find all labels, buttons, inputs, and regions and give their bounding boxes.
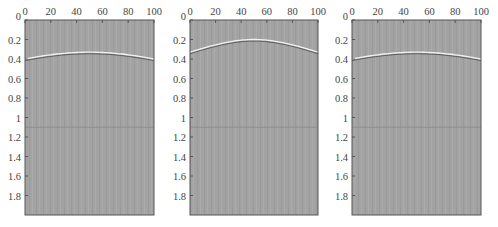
y-tick-label: 0.4 [173, 54, 187, 65]
x-tick-label: 80 [287, 6, 298, 17]
x-tick-label: 60 [97, 6, 108, 17]
figure-canvas: 02040608010000.20.40.60.811.21.41.61.802… [0, 0, 498, 227]
y-tick-label: 1.6 [173, 171, 186, 182]
y-tick-label: 1.8 [173, 191, 186, 202]
y-tick-label: 1.8 [335, 191, 348, 202]
y-tick-label: 1.2 [8, 132, 21, 143]
y-tick-label: 1.6 [335, 171, 348, 182]
x-tick-label: 20 [373, 6, 384, 17]
y-tick-label: 0.6 [335, 74, 348, 85]
x-tick-label: 60 [424, 6, 435, 17]
y-tick-label: 0 [181, 11, 186, 22]
x-tick-label: 100 [310, 6, 326, 17]
y-tick-label: 1 [343, 113, 348, 124]
y-tick-label: 0.4 [8, 54, 22, 65]
y-tick-label: 1.2 [335, 132, 348, 143]
seismic-panel-2: 02040608010000.20.40.60.811.21.41.61.8 [173, 6, 326, 215]
y-tick-label: 0.2 [173, 35, 186, 46]
y-tick-label: 1.4 [8, 152, 22, 163]
x-tick-label: 60 [262, 6, 273, 17]
y-tick-label: 1 [181, 113, 186, 124]
seismic-panel-3: 02040608010000.20.40.60.811.21.41.61.8 [335, 6, 489, 215]
seismic-panel-1: 02040608010000.20.40.60.811.21.41.61.8 [8, 6, 162, 215]
x-tick-label: 100 [473, 6, 489, 17]
x-tick-label: 40 [71, 6, 82, 17]
y-tick-label: 0.2 [8, 35, 21, 46]
y-tick-label: 1.2 [173, 132, 186, 143]
y-tick-label: 0.8 [173, 93, 186, 104]
plot-area [352, 20, 481, 215]
x-tick-label: 20 [210, 6, 221, 17]
y-tick-label: 0.6 [173, 74, 186, 85]
x-tick-label: 40 [398, 6, 409, 17]
x-tick-label: 80 [123, 6, 134, 17]
y-tick-label: 0.6 [8, 74, 21, 85]
y-tick-label: 1.4 [335, 152, 349, 163]
y-tick-label: 0 [343, 11, 348, 22]
y-tick-label: 0 [16, 11, 21, 22]
y-tick-label: 0.8 [335, 93, 348, 104]
x-tick-label: 100 [146, 6, 162, 17]
x-tick-label: 80 [450, 6, 461, 17]
x-tick-label: 0 [187, 6, 192, 17]
x-tick-label: 0 [349, 6, 354, 17]
y-tick-label: 0.8 [8, 93, 21, 104]
y-tick-label: 0.2 [335, 35, 348, 46]
x-tick-label: 0 [22, 6, 27, 17]
y-tick-label: 1 [16, 113, 21, 124]
y-tick-label: 1.8 [8, 191, 21, 202]
y-tick-label: 0.4 [335, 54, 349, 65]
plot-area [190, 20, 318, 215]
x-tick-label: 40 [236, 6, 247, 17]
x-tick-label: 20 [46, 6, 57, 17]
y-tick-label: 1.6 [8, 171, 21, 182]
y-tick-label: 1.4 [173, 152, 187, 163]
plot-area [25, 20, 154, 215]
